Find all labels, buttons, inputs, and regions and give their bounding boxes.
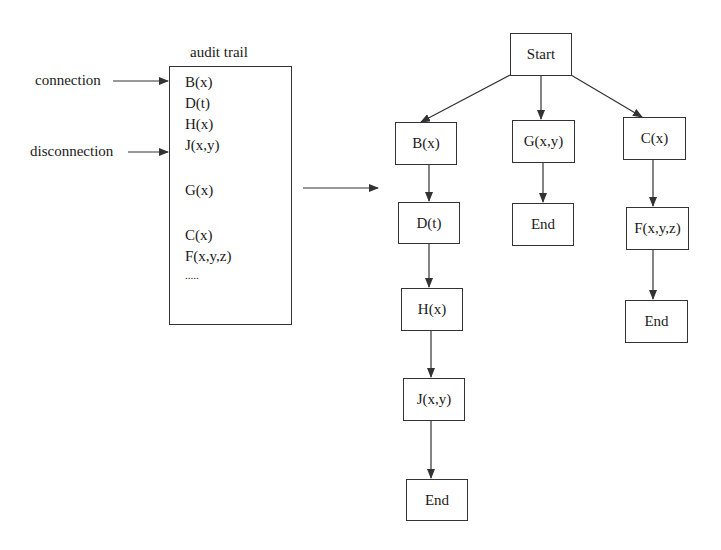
trail-entry: B(x) (185, 74, 213, 91)
connection-label: connection (35, 72, 101, 89)
diagram-connectors (0, 0, 721, 550)
trail-ellipsis: ..... (185, 267, 199, 284)
trail-entry: J(x,y) (185, 137, 220, 154)
node-end-branch-b: End (406, 479, 468, 521)
node-f: F(x,y,z) (626, 207, 689, 250)
trail-entry: G(x) (185, 182, 213, 199)
node-start: Start (510, 33, 572, 76)
node-g: G(x,y) (512, 120, 575, 163)
audit-trail-title: audit trail (190, 44, 248, 61)
node-c: C(x) (623, 117, 686, 160)
start-to-b-arrow (421, 75, 510, 122)
node-d: D(t) (398, 202, 460, 244)
audit-trail-box: B(x) D(t) H(x) J(x,y) G(x) C(x) F(x,y,z)… (169, 66, 292, 325)
node-end-branch-g: End (512, 203, 574, 246)
trail-entry: F(x,y,z) (185, 248, 232, 265)
disconnection-label: disconnection (30, 143, 113, 160)
start-to-c-arrow (571, 75, 642, 117)
node-h: H(x) (401, 288, 463, 331)
node-j: J(x,y) (403, 378, 465, 421)
trail-entry: D(t) (185, 95, 210, 112)
trail-entry: H(x) (185, 116, 213, 133)
node-end-branch-c: End (625, 300, 688, 343)
trail-entry: C(x) (185, 227, 213, 244)
node-b: B(x) (395, 122, 457, 165)
